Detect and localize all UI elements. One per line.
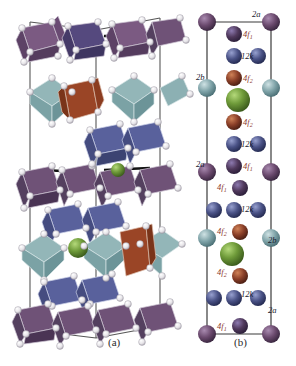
site-label-text: 4f: [243, 29, 250, 39]
site-label-t-12k-4: 12k: [241, 290, 253, 299]
crystal-structure-figure: 2a4f112k2b4f24f212k2a4f14f112k4f22b4f212…: [0, 0, 296, 366]
site-label-t-4f1-3: 4f1: [217, 183, 227, 193]
site-label-t-4f1-2: 4f1: [243, 162, 253, 172]
site-label-t-12k-1: 12k: [241, 52, 253, 61]
site-label-t-4f1-1: 4f1: [243, 30, 253, 40]
site-label-text: 2b: [268, 235, 277, 245]
site-label-t-4f1-4: 4f1: [217, 322, 227, 332]
polyhedron-purple-row4: [16, 164, 178, 208]
panel-a-caption: (a): [108, 336, 120, 348]
site-label-subscript: 2: [224, 272, 227, 278]
site-label-t-2b-left: 2b: [196, 73, 205, 82]
site-label-subscript: 2: [250, 122, 253, 128]
site-label-text: 4f: [243, 73, 250, 83]
site-label-t-4f2-1: 4f2: [243, 74, 253, 84]
panel-b-unitcell: [198, 13, 280, 343]
site-label-subscript: 1: [250, 34, 253, 40]
site-label-t-2a-right: 2a: [268, 306, 277, 315]
site-label-text: 4f: [243, 117, 250, 127]
panel-b-caption: (b): [234, 336, 247, 348]
site-label-text: 2b: [196, 72, 205, 82]
polyhedron-purple-row8: [12, 302, 178, 346]
site-label-text: 12k: [241, 51, 253, 61]
site-label-text: 4f: [243, 161, 250, 171]
site-label-t-12k-3: 12k: [241, 205, 253, 214]
site-label-text: 12k: [241, 204, 253, 214]
site-label-subscript: 2: [224, 231, 227, 237]
site-label-t-2a-top: 2a: [252, 10, 261, 19]
site-label-text: 4f: [217, 321, 224, 331]
site-label-text: 2a: [196, 159, 205, 169]
site-label-subscript: 1: [224, 326, 227, 332]
site-label-text: 2a: [252, 9, 261, 19]
site-label-t-4f2-3: 4f2: [217, 227, 227, 237]
panel-b-cell-frame: [207, 22, 271, 334]
site-label-t-4f2-2: 4f2: [243, 118, 253, 128]
site-label-t-2b-right: 2b: [268, 236, 277, 245]
site-label-text: 4f: [217, 267, 224, 277]
site-label-t-12k-2: 12k: [241, 140, 253, 149]
panel-a-structure: [12, 15, 193, 350]
site-label-text: 4f: [217, 226, 224, 236]
site-label-text: 12k: [241, 139, 253, 149]
site-label-text: 4f: [217, 182, 224, 192]
site-label-text: 2a: [268, 305, 277, 315]
site-label-t-2a-left: 2a: [196, 160, 205, 169]
site-label-subscript: 2: [250, 78, 253, 84]
site-label-subscript: 1: [250, 166, 253, 172]
polyhedron-teal-row2: [30, 76, 190, 124]
site-label-text: 12k: [241, 289, 253, 299]
site-label-subscript: 1: [224, 187, 227, 193]
site-label-t-4f2-4: 4f2: [217, 268, 227, 278]
